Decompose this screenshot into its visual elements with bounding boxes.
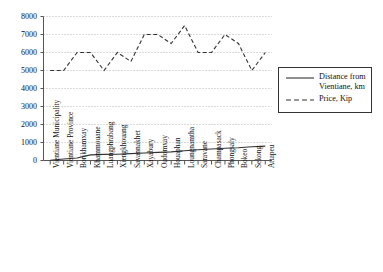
x-axis-tick-label: Champasack bbox=[215, 130, 223, 168]
legend-label-distance-line1: Distance from bbox=[319, 72, 366, 82]
x-axis-tick-label: Vientiane Municipality bbox=[53, 99, 61, 167]
series-line bbox=[50, 26, 265, 71]
x-axis-tick-label: Xayabury bbox=[147, 138, 155, 167]
y-axis-tick-label: 4000 bbox=[5, 85, 37, 93]
x-axis-tick-label: Phongsaly bbox=[228, 137, 236, 168]
x-axis-tick-label: Houaphan bbox=[174, 137, 182, 167]
x-axis-tick-label: Sekong bbox=[255, 145, 263, 167]
chart-legend: Distance from Vientiane, km Price, Kip bbox=[278, 67, 372, 113]
y-axis-tick-label: 7000 bbox=[5, 31, 37, 39]
y-axis-tick-label: 1000 bbox=[5, 139, 37, 147]
legend-sample-solid-icon bbox=[285, 76, 315, 80]
x-axis-tick-label: Xiengkhouang bbox=[120, 124, 128, 168]
y-axis-tick-label: 6000 bbox=[5, 49, 37, 57]
legend-label-price: Price, Kip bbox=[319, 94, 352, 104]
legend-sample-dashed-icon bbox=[285, 98, 315, 102]
y-axis-tick-label: 3000 bbox=[5, 103, 37, 111]
y-axis-tick-label: 0 bbox=[5, 157, 37, 165]
x-axis-tick-label: Oudomxay bbox=[161, 135, 169, 168]
legend-label-distance-line2: Vientiane, km bbox=[319, 82, 365, 92]
x-axis-tick-label: Borikhamxay bbox=[80, 127, 88, 167]
x-axis-tick-label: Loungnamtha bbox=[188, 126, 196, 167]
x-axis-tick-label: Attapeu bbox=[268, 144, 276, 167]
x-axis-tick-label: Bokeo bbox=[241, 148, 249, 167]
grid-lines bbox=[44, 17, 273, 161]
y-axis-tick-label: 5000 bbox=[5, 67, 37, 75]
x-axis-tick-label: Luangphrabang bbox=[107, 121, 115, 167]
x-axis-tick-label: Khammouane bbox=[94, 126, 102, 167]
y-axis-tick-label: 2000 bbox=[5, 121, 37, 129]
x-axis-tick-label: Vientiane Province bbox=[67, 111, 75, 167]
chart-container: 800070006000500040003000200010000 Vienti… bbox=[0, 0, 383, 272]
x-axis-tick-label: Saravane bbox=[201, 140, 209, 167]
y-axis-tick-label: 8000 bbox=[5, 13, 37, 21]
x-axis-tick-label: Savannakhet bbox=[134, 130, 142, 168]
